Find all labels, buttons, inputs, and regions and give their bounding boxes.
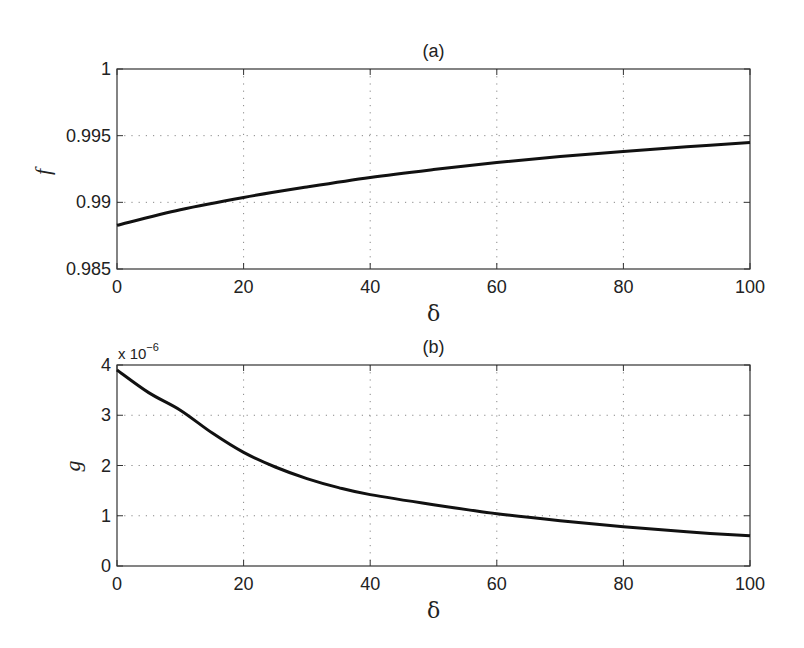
x-tick-label: 0 bbox=[112, 277, 122, 297]
y-axis-label: g bbox=[60, 461, 85, 472]
x-axis-label: δ bbox=[427, 301, 440, 326]
y-axis-multiplier: x 10−6 bbox=[118, 341, 159, 362]
subplot-title: (b) bbox=[423, 337, 445, 357]
y-tick-label: 0 bbox=[101, 556, 111, 576]
data-line-g bbox=[117, 370, 750, 536]
x-axis-label: δ bbox=[427, 598, 440, 623]
x-tick-label: 0 bbox=[112, 574, 122, 594]
subplot-title: (a) bbox=[423, 41, 445, 61]
x-tick-label: 40 bbox=[360, 277, 380, 297]
x-tick-label: 100 bbox=[735, 574, 765, 594]
axes-frame bbox=[117, 365, 750, 566]
x-tick-label: 20 bbox=[234, 277, 254, 297]
x-tick-label: 100 bbox=[735, 277, 765, 297]
x-tick-label: 60 bbox=[487, 277, 507, 297]
y-axis-label: f bbox=[30, 166, 55, 175]
subplot-b: 02040608010001234(b)δgx 10−6 bbox=[60, 337, 765, 623]
x-tick-label: 20 bbox=[234, 574, 254, 594]
y-tick-label: 0.985 bbox=[66, 259, 111, 279]
multiplier-exponent: −6 bbox=[146, 341, 159, 353]
multiplier-base: x 10 bbox=[118, 345, 146, 362]
subplot-a: 0204060801000.9850.990.9951(a)δf bbox=[30, 41, 765, 326]
y-tick-label: 0.99 bbox=[76, 192, 111, 212]
y-tick-label: 2 bbox=[101, 456, 111, 476]
x-tick-label: 80 bbox=[613, 574, 633, 594]
x-tick-label: 80 bbox=[613, 277, 633, 297]
tick-marks bbox=[117, 365, 750, 566]
grid-lines bbox=[117, 365, 750, 566]
y-tick-label: 4 bbox=[101, 355, 111, 375]
y-tick-label: 3 bbox=[101, 405, 111, 425]
y-tick-label: 1 bbox=[101, 506, 111, 526]
y-tick-label: 1 bbox=[101, 59, 111, 79]
data-line-f bbox=[117, 143, 750, 226]
y-tick-label: 0.995 bbox=[66, 126, 111, 146]
figure: 0204060801000.9850.990.9951(a)δf02040608… bbox=[0, 0, 804, 648]
x-tick-label: 40 bbox=[360, 574, 380, 594]
x-tick-label: 60 bbox=[487, 574, 507, 594]
